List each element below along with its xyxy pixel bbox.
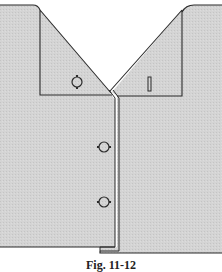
figure-caption: Fig. 11-12 xyxy=(0,259,222,271)
right-front-panel xyxy=(100,5,222,253)
